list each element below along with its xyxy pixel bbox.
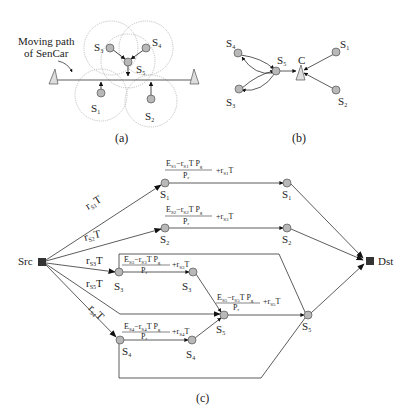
svg-text:S2: S2	[145, 110, 154, 123]
svg-text:S3: S3	[226, 96, 235, 109]
svg-text:S3: S3	[114, 280, 123, 293]
svg-text:S3: S3	[94, 41, 103, 54]
svg-text:S4: S4	[122, 345, 131, 358]
caption-c: (c)	[196, 391, 209, 405]
node-s3-a: S3	[94, 41, 114, 54]
svg-text:S5: S5	[136, 63, 145, 76]
node-s1-b: S1	[332, 38, 349, 56]
svg-text:S3: S3	[182, 280, 191, 293]
svg-text:Pr: Pr	[141, 266, 147, 275]
node-s4-b: S4	[226, 37, 242, 57]
caption-a: (a)	[115, 131, 128, 145]
start-triangle-icon	[49, 69, 58, 84]
svg-text:Pr: Pr	[233, 303, 239, 312]
svg-text:S5: S5	[277, 54, 286, 67]
node-s3-b: S3	[226, 85, 243, 109]
svg-text:rS4T: rS4T	[86, 302, 107, 323]
svg-text:ES4−rS4T Pg: ES4−rS4T Pg	[124, 322, 161, 332]
svg-text:S1: S1	[340, 38, 349, 51]
svg-text:+rS4T: +rS4T	[172, 327, 189, 337]
svg-text:Pr: Pr	[183, 171, 189, 180]
svg-text:S4: S4	[186, 348, 195, 361]
svg-text:+rS5T: +rS5T	[263, 297, 280, 307]
node-s2-b: S2	[332, 86, 347, 108]
node-s2-out: S2	[282, 224, 291, 246]
svg-text:S1: S1	[282, 188, 291, 201]
svg-text:Pr: Pr	[141, 332, 147, 341]
caption-b: (b)	[292, 131, 306, 145]
node-s1-a: S1	[91, 89, 105, 115]
dest-label: Dst	[378, 255, 393, 267]
svg-text:+rS1T: +rS1T	[216, 166, 233, 176]
annotation-sencar: of SenCar	[24, 47, 69, 59]
svg-text:S4: S4	[152, 36, 161, 49]
capacity-s2: ES2−rS2T Pg Pr +rS3T	[165, 205, 233, 226]
svg-text:rS3T: rS3T	[86, 254, 103, 267]
svg-text:ES1−rS1T Pg: ES1−rS1T Pg	[166, 159, 203, 169]
svg-text:rS5T: rS5T	[86, 277, 103, 290]
svg-text:+rS3T: +rS3T	[172, 260, 189, 270]
svg-text:ES3−rS3T Pg: ES3−rS3T Pg	[124, 255, 161, 265]
capacity-s5: ES5−rS5T Pg Pr +rS5T	[216, 293, 280, 312]
annotation-moving-path: Moving path	[18, 35, 75, 47]
source-node	[38, 258, 46, 266]
source-label: Src	[18, 255, 33, 267]
svg-text:S4: S4	[226, 37, 235, 50]
end-triangle-icon	[190, 69, 199, 84]
node-s5-out: S5	[302, 311, 312, 333]
node-s5-b: S5	[272, 54, 286, 75]
collector-label: C	[298, 54, 305, 66]
figure: Moving path of SenCar S3 S4 S5 S1 S2 (a)	[0, 0, 405, 418]
node-s2-a: S2	[145, 95, 155, 123]
node-s4-in: S4	[116, 336, 131, 358]
capacity-s4: ES4−rS4T Pg Pr +rS4T	[122, 322, 189, 341]
node-s2-in: S2	[160, 224, 169, 246]
svg-text:+rS3T: +rS3T	[216, 212, 233, 222]
svg-text:S2: S2	[282, 233, 291, 246]
capacity-s1: ES1−rS1T Pg Pr +rS1T	[165, 159, 233, 180]
node-s5-in: S5	[216, 311, 228, 336]
node-s1-out: S1	[282, 179, 291, 201]
panel-a: Moving path of SenCar S3 S4 S5 S1 S2 (a)	[18, 21, 199, 145]
svg-text:rS1T: rS1T	[83, 193, 104, 213]
svg-text:S1: S1	[91, 102, 100, 115]
panel-b: C S4 S3 S5 S1 S2 (b)	[226, 37, 349, 145]
svg-text:S5: S5	[216, 323, 225, 336]
panel-c: Src Dst rS1T rS2T rS3T rS5T rS4T	[18, 159, 393, 405]
svg-text:Pr: Pr	[183, 217, 189, 226]
svg-text:ES5−rS5T Pg: ES5−rS5T Pg	[217, 293, 254, 303]
svg-text:rS2T: rS2T	[83, 227, 103, 244]
svg-text:S2: S2	[160, 233, 169, 246]
node-s4-a: S4	[142, 36, 161, 52]
svg-text:S2: S2	[338, 95, 347, 108]
svg-text:S5: S5	[302, 320, 311, 333]
dest-node	[366, 257, 374, 265]
svg-text:ES2−rS2T Pg: ES2−rS2T Pg	[166, 205, 203, 215]
node-s1-in: S1	[160, 179, 169, 201]
collector-triangle-icon	[296, 65, 305, 80]
svg-text:S1: S1	[160, 188, 169, 201]
node-s3-in: S3	[114, 268, 123, 293]
annotation-arrow	[58, 61, 72, 72]
